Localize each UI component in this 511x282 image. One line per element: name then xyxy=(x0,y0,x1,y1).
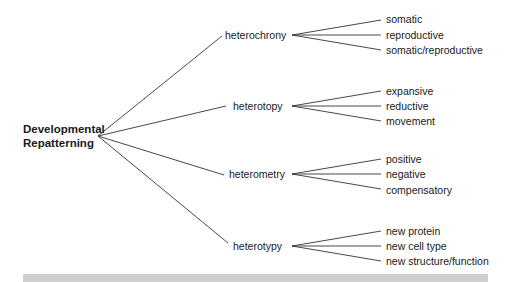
leaf-positive: positive xyxy=(386,153,422,165)
footer-bar xyxy=(23,274,488,282)
leaf-new-structure-function: new structure/function xyxy=(386,255,489,267)
leaf-somatic: somatic xyxy=(386,13,422,25)
leaf-movement: movement xyxy=(386,115,435,127)
leaf-negative: negative xyxy=(386,168,426,180)
diagram: Developmental Repatterning heterochrony … xyxy=(0,0,511,282)
branch-heterochrony: heterochrony xyxy=(225,29,286,41)
branch-heterotypy: heterotypy xyxy=(233,240,282,252)
root-node: Developmental Repatterning xyxy=(23,122,105,150)
branch-heterotopy: heterotopy xyxy=(233,100,283,112)
root-label-line1: Developmental xyxy=(23,122,105,136)
leaf-expansive: expansive xyxy=(386,85,433,97)
leaf-new-protein: new protein xyxy=(386,225,440,237)
branch-heterometry: heterometry xyxy=(229,168,285,180)
leaf-reproductive: reproductive xyxy=(386,29,444,41)
root-label-line2: Repatterning xyxy=(23,136,105,150)
leaf-somatic-reproductive: somatic/reproductive xyxy=(386,44,483,56)
leaf-new-cell-type: new cell type xyxy=(386,240,447,252)
leaf-reductive: reductive xyxy=(386,100,429,112)
leaf-compensatory: compensatory xyxy=(386,184,452,196)
